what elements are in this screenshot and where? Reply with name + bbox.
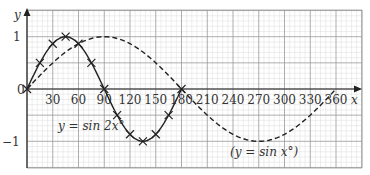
x-tick-label: 120	[119, 93, 142, 107]
axes	[24, 8, 363, 168]
x-tick-label: 300	[273, 93, 296, 107]
chart: 306090120150180210240270300330360 y x 0 …	[0, 0, 370, 175]
x-tick-label: 240	[222, 93, 245, 107]
y-tick-1: 1	[13, 30, 21, 44]
x-tick-label: 360	[325, 93, 348, 107]
x-tick-label: 210	[196, 93, 219, 107]
x-axis-label: x	[351, 93, 358, 107]
x-tick-label: 150	[144, 93, 167, 107]
y-axis-label: y	[13, 8, 21, 22]
x-tick-label: 330	[299, 93, 322, 107]
x-axis-arrow-icon	[354, 86, 362, 93]
x-tick-label: 270	[247, 93, 270, 107]
x-tick-label: 30	[45, 93, 60, 107]
x-tick-label: 60	[71, 93, 86, 107]
sin-x-label: (y = sin x°)	[230, 145, 298, 159]
sin-2x-label: y = sin 2x°	[57, 119, 124, 133]
y-tick-minus-1: −1	[2, 135, 20, 149]
y-axis-arrow-icon	[24, 8, 31, 16]
